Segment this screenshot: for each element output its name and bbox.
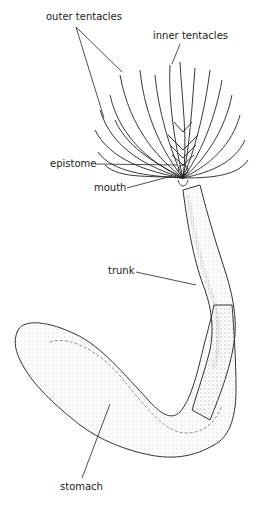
label-trunk: trunk [108,266,135,276]
label-epistome: epistome [50,159,96,169]
phoronid-illustration [0,0,256,505]
tentacle-crown [95,62,248,186]
label-mouth: mouth [94,183,126,193]
label-stomach: stomach [60,482,103,492]
label-outer-tentacles: outer tentacles [46,12,122,22]
label-inner-tentacles: inner tentacles [153,31,228,41]
